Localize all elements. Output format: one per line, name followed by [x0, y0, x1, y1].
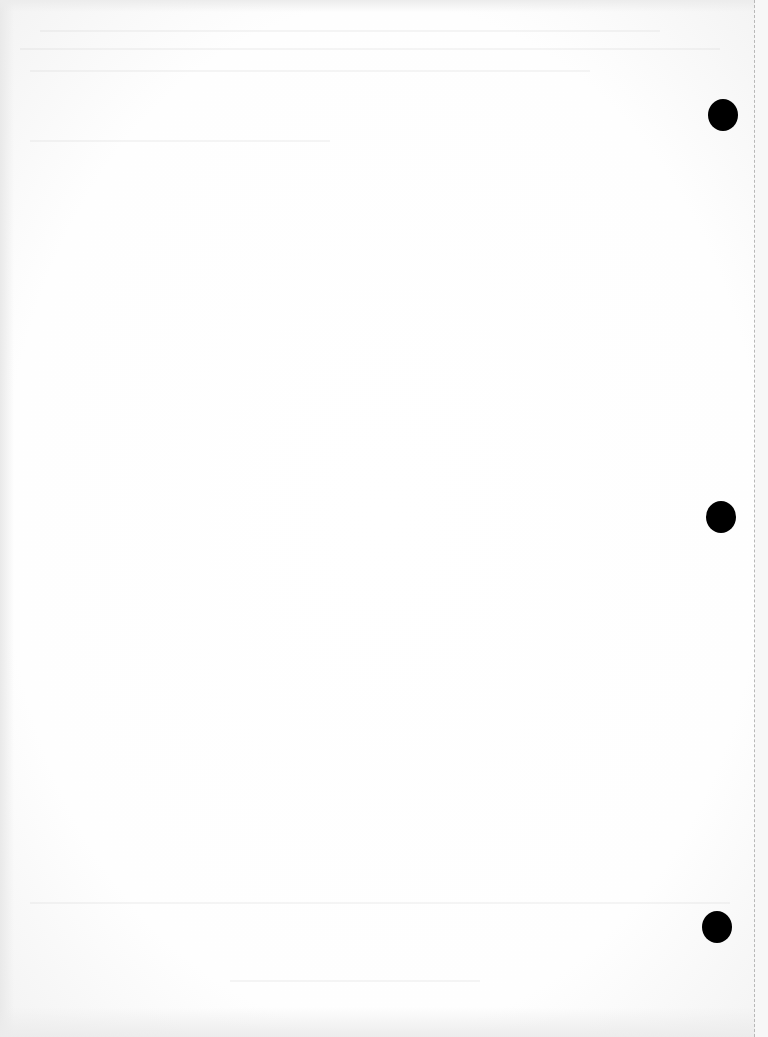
- punch-hole-top: [708, 99, 738, 131]
- punch-hole-middle: [706, 501, 736, 533]
- bleed-through-trace: [30, 140, 330, 142]
- bleed-through-trace: [30, 902, 730, 904]
- punch-hole-bottom: [702, 911, 732, 943]
- page-edge-shadow-left: [0, 0, 14, 1037]
- page-edge-shadow-bottom: [0, 1007, 768, 1037]
- scanned-page: [0, 0, 768, 1037]
- bleed-through-trace: [30, 70, 590, 72]
- perforation-line: [754, 0, 755, 1037]
- page-edge-shadow-top: [0, 0, 768, 12]
- bleed-through-trace: [40, 30, 660, 32]
- bleed-through-trace: [20, 48, 720, 50]
- bleed-through-trace: [230, 980, 480, 982]
- page-margin-strip: [755, 0, 768, 1037]
